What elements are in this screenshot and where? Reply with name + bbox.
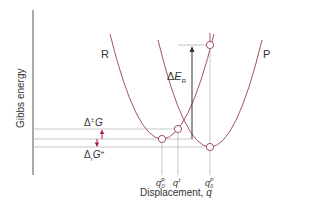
product-min-point: [206, 143, 213, 150]
tick-q0R-sub: 0: [162, 183, 165, 189]
activation-energy-label: Δ‡G: [84, 117, 103, 128]
x-axis-label: Displacement, q: [140, 187, 212, 198]
reaction-sup: ⦵: [100, 149, 105, 155]
reactant-min-point: [158, 135, 165, 142]
x-axis-label-text: Displacement,: [140, 187, 206, 198]
activation-sym: G: [95, 117, 103, 128]
transition-point: [174, 125, 181, 132]
activation-sup: ‡: [91, 117, 94, 123]
reactant-curve: [110, 34, 214, 139]
y-axis-label: Gibbs energy: [15, 69, 26, 128]
reaction-energy-label: ΔrG⦵: [84, 149, 105, 162]
tick-q0R: qR0: [156, 177, 165, 189]
arrowhead-up-icon: [190, 46, 195, 52]
reactant-label: R: [101, 48, 109, 60]
reorganization-energy-label: ΔER: [167, 70, 187, 84]
product-top-point: [206, 41, 213, 48]
product-label: P: [263, 48, 270, 60]
reaction-arrowhead-icon: [95, 143, 99, 148]
tick-q0P: qP0: [205, 177, 214, 189]
tick-q0P-sub: 0: [210, 183, 213, 189]
tick-qts-sup: ‡: [178, 177, 181, 183]
activation-arrowhead-icon: [100, 130, 104, 135]
reorg-sub: R: [182, 78, 187, 84]
marcus-theory-diagram: R P Gibbs energy Displacement, q qR0 q‡ …: [0, 0, 334, 212]
